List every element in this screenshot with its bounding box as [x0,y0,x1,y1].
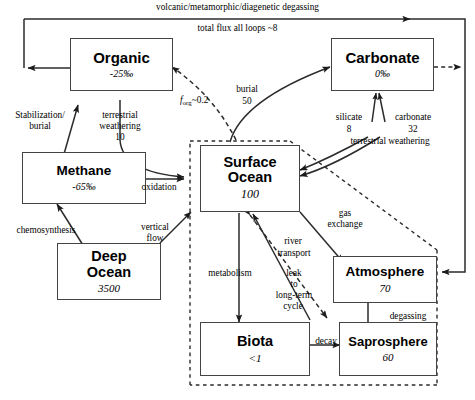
box-methane-name: Methane [57,164,112,178]
label-metabolism: metabolism [182,268,278,278]
box-atmosphere[interactable]: Atmosphere 70 [333,256,437,303]
box-carbonate-value: 0‰ [375,68,390,79]
label-degassing-loop-line2: total flux all loops ~8 [0,23,475,33]
label-leak-line3: long-term [256,290,332,300]
box-deep-ocean-name-line1: Deep [91,249,126,264]
label-leak-line2: to [272,279,316,289]
label-carbonate-flux: carbonate [383,112,443,122]
label-terrestrial-weathering-right: terrestrial weathering [316,136,464,146]
label-terrestrial-weathering-left-line2: weathering [82,121,158,131]
label-river-transport-line1: river [266,236,320,246]
label-decay: decay [306,336,346,346]
box-organic-value: -25‰ [110,68,133,79]
box-carbonate[interactable]: Carbonate 0‰ [331,38,434,91]
box-deep-ocean-name-line2: Ocean [87,265,131,280]
box-carbonate-name: Carbonate [345,50,419,66]
label-carbonate-flux-value: 32 [383,124,443,134]
label-silicate: silicate [324,112,374,122]
label-forg-value: ~0.2 [192,95,209,105]
label-river-transport-line2: transport [258,248,330,258]
box-biota-name: Biota [237,334,273,349]
label-gas-exchange-line2: exchange [310,219,380,229]
label-degassing: degassing [376,311,440,321]
box-surface-ocean[interactable]: Surface Ocean 100 [200,145,300,212]
box-biota-value: <1 [249,352,262,364]
label-burial: burial [225,84,269,94]
label-terrestrial-weathering-left-value: 10 [82,132,158,142]
label-silicate-value: 8 [324,124,374,134]
label-leak-line1: leak [272,268,316,278]
label-forg-subscript: org [183,99,192,107]
box-biota[interactable]: Biota <1 [200,322,310,376]
label-terrestrial-weathering-left-line1: terrestrial [82,110,158,120]
label-stabilization-line2: burial [0,121,80,131]
box-saprosphere-name: Saprosphere [348,335,427,349]
label-gas-exchange-line1: gas [318,208,372,218]
box-surface-ocean-name-line1: Surface [223,155,276,170]
label-chemosynthesis: chemosynthesis [0,225,92,235]
box-deep-ocean-value: 3500 [98,282,120,294]
label-oxidation: oxidation [124,182,194,192]
box-organic[interactable]: Organic -25‰ [70,38,173,91]
label-burial-value: 50 [225,96,269,106]
box-saprosphere[interactable]: Saprosphere 60 [339,322,437,376]
box-atmosphere-value: 70 [380,282,391,294]
box-atmosphere-name: Atmosphere [346,265,425,279]
box-surface-ocean-name-line2: Ocean [228,170,272,185]
label-leak-line4: cycle [260,301,326,311]
box-methane[interactable]: Methane -65‰ [22,152,146,204]
label-vertical-flow-line1: vertical [128,222,182,232]
label-degassing-loop-line1: volcanic/metamorphic/diagenetic degassin… [0,2,475,12]
box-saprosphere-value: 60 [383,351,394,363]
label-vertical-flow-line2: flow [128,233,182,243]
box-surface-ocean-value: 100 [241,187,259,202]
box-methane-value: -65‰ [72,181,95,192]
box-deep-ocean[interactable]: Deep Ocean 3500 [57,243,161,300]
box-organic-name: Organic [93,50,150,66]
label-stabilization-line1: Stabilization/ [0,110,80,120]
carbon-cycle-diagram: Organic -25‰ Carbonate 0‰ Methane -65‰ D… [0,0,475,400]
